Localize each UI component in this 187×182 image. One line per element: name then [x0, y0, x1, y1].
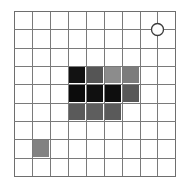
- shaded-cell: [123, 85, 139, 102]
- shaded-cell: [87, 104, 103, 120]
- shaded-cell: [69, 67, 85, 83]
- marker-layer: [152, 24, 164, 36]
- shaded-cell: [33, 140, 49, 157]
- grid-diagram: [0, 0, 187, 182]
- shaded-cell: [87, 67, 103, 83]
- shaded-cell: [105, 85, 121, 102]
- shaded-cell: [105, 104, 121, 120]
- shaded-cell: [105, 67, 121, 83]
- shaded-cell: [69, 104, 85, 120]
- grid-canvas: [0, 0, 187, 182]
- shaded-cell: [87, 85, 103, 102]
- shaded-cell: [123, 67, 139, 83]
- open-circle-marker-icon: [152, 24, 164, 36]
- shaded-cell: [69, 85, 85, 102]
